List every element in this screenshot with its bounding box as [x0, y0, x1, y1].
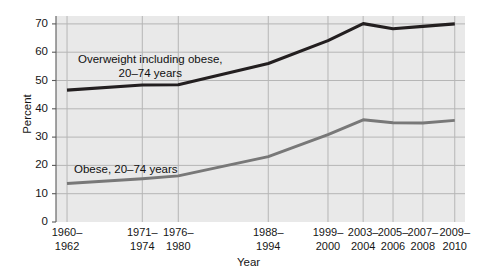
gridlines: [56, 16, 465, 222]
x-axis-tick-label: 2009–2010: [431, 226, 479, 253]
series-annotation-overweight-line2: 20–74 years: [78, 66, 222, 80]
series-annotation-obese-label: Obese, 20–74 years: [74, 163, 178, 175]
y-axis-tick-label: 10: [22, 187, 48, 199]
series-annotation-overweight: Overweight including obese, 20–74 years: [78, 52, 222, 80]
series-annotation-overweight-line1: Overweight including obese,: [78, 53, 222, 65]
x-axis-tick-label-line1: 1976–: [163, 226, 194, 238]
chart-figure: 010203040506070 1960–19621971–19741976–1…: [0, 0, 497, 276]
x-axis-tick-label: 1988–1994: [244, 226, 292, 253]
axis-lines: [52, 16, 56, 222]
x-axis-tick-label: 1976–1980: [154, 226, 202, 253]
x-axis-tick-label-line2: 2010: [431, 240, 479, 254]
x-axis-tick-label-line1: 1988–: [253, 226, 284, 238]
x-axis-title: Year: [0, 256, 497, 268]
x-axis-tick-label-line2: 1994: [244, 240, 292, 254]
x-axis-tick-label: 1960–1962: [43, 226, 91, 253]
x-axis-tick-label-line1: 2009–: [439, 226, 470, 238]
series-annotation-obese: Obese, 20–74 years: [74, 162, 178, 176]
y-axis-title: Percent: [21, 74, 33, 154]
data-series-lines: [67, 24, 455, 184]
y-axis-tick-label: 70: [22, 17, 48, 29]
x-axis-tick-label-line1: 1960–: [52, 226, 83, 238]
y-axis-tick-label: 20: [22, 158, 48, 170]
x-axis-tick-label-line2: 1980: [154, 240, 202, 254]
x-axis-tick-label-line2: 1962: [43, 240, 91, 254]
x-axis-tick-label-line1: 1971–: [127, 226, 158, 238]
y-axis-tick-label: 60: [22, 45, 48, 57]
